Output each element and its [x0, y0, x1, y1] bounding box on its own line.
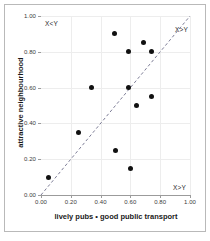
x-tick-mark [160, 195, 161, 198]
x-tick-mark [190, 195, 191, 198]
x-tick-label: 1.00 [184, 199, 196, 205]
y-tick-mark [38, 195, 41, 196]
data-point [113, 148, 118, 153]
data-point [128, 166, 133, 171]
y-axis-title: attractive neighbourhood [16, 23, 25, 183]
data-point [134, 103, 139, 108]
x-tick-label: 0.80 [154, 199, 166, 205]
x-tick-mark [101, 195, 102, 198]
data-point [112, 31, 117, 36]
x-tick-label: 0.40 [95, 199, 107, 205]
annotation-x-less-than-y: X<Y [45, 20, 58, 27]
y-tick-label: 0.00 [24, 192, 36, 198]
y-tick-label: 1.00 [24, 13, 36, 19]
x-axis-line [41, 195, 191, 196]
x-tick-label: 0.20 [65, 199, 77, 205]
x-tick-mark [71, 195, 72, 198]
data-point [149, 94, 154, 99]
gridline-vertical [190, 16, 191, 195]
data-point [76, 130, 81, 135]
y-tick-label: 0.60 [24, 85, 36, 91]
plot-area: X<Y X>Y X>Y [41, 16, 190, 195]
x-tick-mark [130, 195, 131, 198]
y-tick-label: 0.80 [24, 49, 36, 55]
scatter-plot-figure: 0.000.200.400.600.801.00 0.000.200.400.6… [0, 0, 210, 241]
annotation-x-greater-than-y-lower: X>Y [173, 184, 186, 191]
x-tick-label: 0.60 [124, 199, 136, 205]
y-tick-label: 0.40 [24, 120, 36, 126]
x-tick-label: 0.00 [35, 199, 47, 205]
x-axis-title: lively pubs • good public transport [41, 212, 191, 221]
x-tick-mark [41, 195, 42, 198]
data-point [46, 175, 51, 180]
y-tick-label: 0.20 [24, 156, 36, 162]
annotation-x-greater-than-y-upper: X>Y [175, 26, 188, 33]
identity-reference-line [41, 16, 190, 195]
